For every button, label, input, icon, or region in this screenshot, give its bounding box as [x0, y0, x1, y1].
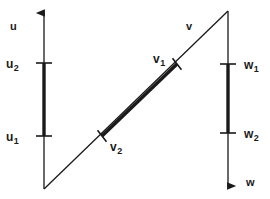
- tick-label-w2-base: w: [244, 127, 253, 141]
- tick-label-v1-subscript: 1: [160, 58, 165, 68]
- diagram-canvas: [0, 0, 270, 199]
- tick-label-v2-subscript: 2: [117, 146, 122, 156]
- axis-label-v: v: [186, 17, 192, 33]
- tick-label-u2-subscript: 2: [14, 63, 19, 73]
- axis-label-u-text: u: [10, 20, 17, 32]
- tick-label-w1-subscript: 1: [254, 64, 259, 74]
- tick-label-w2: w2: [244, 125, 259, 143]
- tick-label-u1: u1: [6, 128, 19, 146]
- tick-label-u2-base: u: [6, 57, 13, 71]
- tick-label-v2-base: v: [110, 140, 117, 154]
- axis-label-v-text: v: [186, 20, 192, 32]
- axis-v-group: [44, 11, 228, 189]
- tick-label-u1-base: u: [6, 130, 13, 144]
- tick-label-v1-base: v: [153, 52, 160, 66]
- tick-label-u1-subscript: 1: [14, 136, 19, 146]
- axis-label-w-text: w: [246, 176, 255, 188]
- tick-label-w1: w1: [244, 56, 259, 74]
- tick-label-v2: v2: [110, 138, 122, 156]
- axis-v-line: [44, 11, 228, 189]
- interval-diagram-figure: u v w u2 u1 v1 v2 w1 w2: [0, 0, 270, 199]
- tick-label-w1-base: w: [244, 58, 253, 72]
- axis-label-w: w: [246, 173, 255, 189]
- axis-label-u: u: [10, 17, 17, 33]
- tick-label-w2-subscript: 2: [254, 133, 259, 143]
- tick-label-v1: v1: [153, 50, 165, 68]
- interval-v-segment: [102, 64, 177, 136]
- tick-label-u2: u2: [6, 55, 19, 73]
